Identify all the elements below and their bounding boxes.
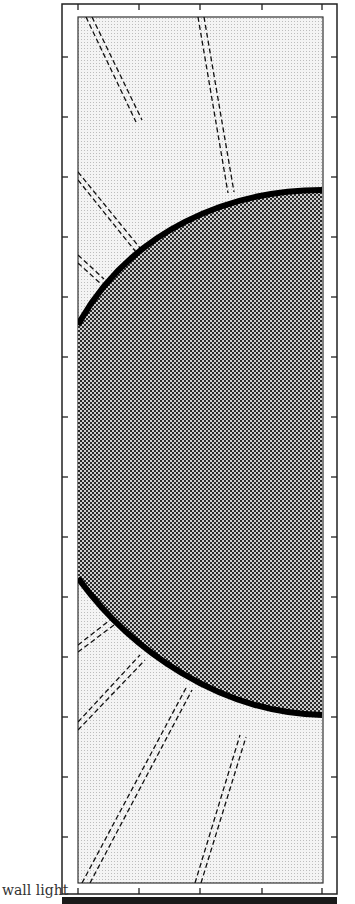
figure-caption: wall light <box>2 882 68 898</box>
wall-light-diagram <box>0 0 355 904</box>
bottom-shadow-bar <box>62 897 337 904</box>
